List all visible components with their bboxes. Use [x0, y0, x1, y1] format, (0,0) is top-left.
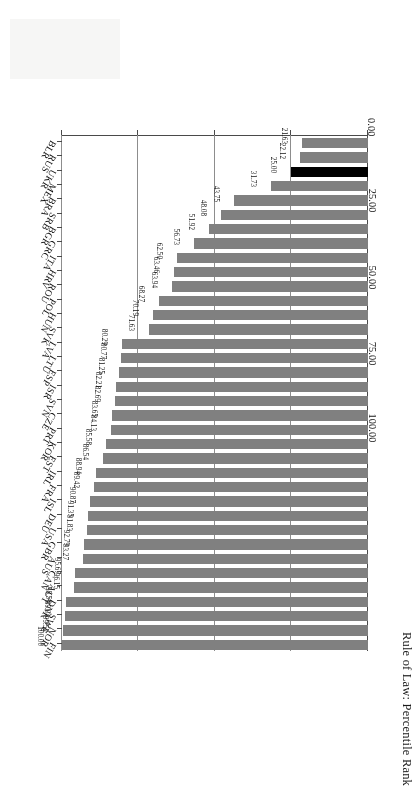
- bar-esp[interactable]: [119, 367, 368, 377]
- bar-ltu[interactable]: [121, 353, 368, 363]
- bar-row[interactable]: 80.29: [62, 337, 368, 350]
- bar-row[interactable]: 70.19: [62, 309, 368, 322]
- category-axis-tick: [57, 442, 62, 443]
- bar-grc[interactable]: [194, 238, 368, 248]
- bar-row[interactable]: 86.54: [62, 452, 368, 465]
- bar-row[interactable]: 31.73: [62, 180, 368, 193]
- bar-row[interactable]: 71.63: [62, 323, 368, 336]
- category-axis-tick: [57, 471, 62, 472]
- category-axis-tick: [57, 328, 62, 329]
- bar-row[interactable]: 81.25: [62, 366, 368, 379]
- bar-nor[interactable]: [63, 625, 368, 635]
- bar-row[interactable]: 91.35: [62, 509, 368, 522]
- bar-usa[interactable]: [87, 525, 368, 535]
- bar-row[interactable]: 63.94: [62, 280, 368, 293]
- bar-aut[interactable]: [74, 582, 368, 592]
- bar-bgr[interactable]: [209, 224, 368, 234]
- category-axis-tick: [57, 399, 62, 400]
- bar-row[interactable]: 51.92: [62, 223, 368, 236]
- category-axis-tick: [57, 356, 62, 357]
- bar-row[interactable]: 62.50: [62, 251, 368, 264]
- bar-row[interactable]: 48.08: [62, 208, 368, 221]
- bar-row[interactable]: 99.04: [62, 610, 368, 623]
- category-axis-tick: [57, 385, 62, 386]
- bar-row[interactable]: 82.21: [62, 380, 368, 393]
- bar-row[interactable]: 85.58: [62, 438, 368, 451]
- bar-kor[interactable]: [106, 439, 368, 449]
- bar-irl[interactable]: [96, 468, 368, 478]
- bar-dnk[interactable]: [66, 597, 368, 607]
- bar-hrv[interactable]: [174, 267, 368, 277]
- bar-lva[interactable]: [122, 339, 368, 349]
- bar-ukr[interactable]: [292, 167, 369, 177]
- bar-row[interactable]: 82.69: [62, 395, 368, 408]
- bar-row[interactable]: 84.13: [62, 423, 368, 436]
- bar-fra[interactable]: [94, 482, 368, 492]
- bar-row[interactable]: 68.27: [62, 294, 368, 307]
- plot-area: 100.0099.5299.0498.5696.1595.6793.2792.7…: [62, 135, 368, 651]
- bar-rus[interactable]: [300, 152, 368, 162]
- bar-row[interactable]: 93.27: [62, 552, 368, 565]
- category-axis-tick: [57, 199, 62, 200]
- bar-row[interactable]: 100.00: [62, 638, 368, 651]
- bar-mex[interactable]: [271, 181, 368, 191]
- bar-row[interactable]: 56.73: [62, 237, 368, 250]
- category-axis-tick: [57, 141, 62, 142]
- category-axis-tick: [57, 285, 62, 286]
- value-axis-title: Rule of Law: Percentile Rank: [396, 559, 414, 790]
- bar-isr[interactable]: [116, 382, 368, 392]
- bar-row[interactable]: 98.56: [62, 595, 368, 608]
- bar-ita[interactable]: [177, 253, 368, 263]
- category-axis-tick: [57, 213, 62, 214]
- bar-blr[interactable]: [302, 138, 368, 148]
- bar-deu[interactable]: [88, 511, 368, 521]
- value-axis: 0.0025.0050.0075.00100.00: [368, 135, 394, 651]
- tick-text: 0.00: [367, 118, 378, 136]
- bar-row[interactable]: 43.75: [62, 194, 368, 207]
- bar-bra[interactable]: [234, 195, 368, 205]
- tick-text: 50.00: [367, 266, 378, 290]
- bar-gbr[interactable]: [84, 539, 368, 549]
- category-axis-tick: [57, 270, 62, 271]
- bar-row[interactable]: 25.00: [62, 165, 368, 178]
- bar-swe[interactable]: [65, 611, 368, 621]
- category-axis-tick: [57, 514, 62, 515]
- category-axis-tick: [57, 629, 62, 630]
- scan-artifact: [10, 19, 120, 79]
- bar-isl[interactable]: [90, 496, 368, 506]
- bar-row[interactable]: 80.77: [62, 352, 368, 365]
- bar-row[interactable]: 99.52: [62, 624, 368, 637]
- bar-rou[interactable]: [172, 281, 368, 291]
- bar-pol[interactable]: [159, 296, 368, 306]
- bar-aus[interactable]: [83, 554, 368, 564]
- category-axis-tick: [57, 557, 62, 558]
- bar-est[interactable]: [103, 453, 368, 463]
- category-axis-tick: [57, 170, 62, 171]
- bar-row[interactable]: 22.12: [62, 151, 368, 164]
- bar-row[interactable]: 88.94: [62, 466, 368, 479]
- bar-row[interactable]: 95.67: [62, 567, 368, 580]
- bar-row[interactable]: 63.46: [62, 266, 368, 279]
- category-axis-tick: [57, 414, 62, 415]
- bar-row[interactable]: 92.79: [62, 538, 368, 551]
- bar-srb[interactable]: [221, 210, 368, 220]
- category-axis: FINNORSWEDNKAUTCANAUSGBRUSADEUISLFRAIRLE…: [0, 135, 62, 651]
- bar-svk[interactable]: [149, 324, 368, 334]
- tick-text: 100.00: [367, 414, 378, 443]
- bar-row[interactable]: 83.65: [62, 409, 368, 422]
- bar-hun[interactable]: [153, 310, 368, 320]
- value-axis-tick: [214, 130, 215, 135]
- bar-row[interactable]: 89.42: [62, 481, 368, 494]
- bar-can[interactable]: [75, 568, 368, 578]
- bar-row[interactable]: 90.87: [62, 495, 368, 508]
- bar-row[interactable]: 91.83: [62, 524, 368, 537]
- bar-cze[interactable]: [112, 410, 368, 420]
- bar-svn[interactable]: [115, 396, 368, 406]
- bar-fin[interactable]: [62, 640, 368, 650]
- bar-row[interactable]: 96.15: [62, 581, 368, 594]
- category-axis-tick: [57, 242, 62, 243]
- bar-row[interactable]: 21.63: [62, 137, 368, 150]
- value-axis-tick: [291, 130, 292, 135]
- bar-prt[interactable]: [111, 425, 368, 435]
